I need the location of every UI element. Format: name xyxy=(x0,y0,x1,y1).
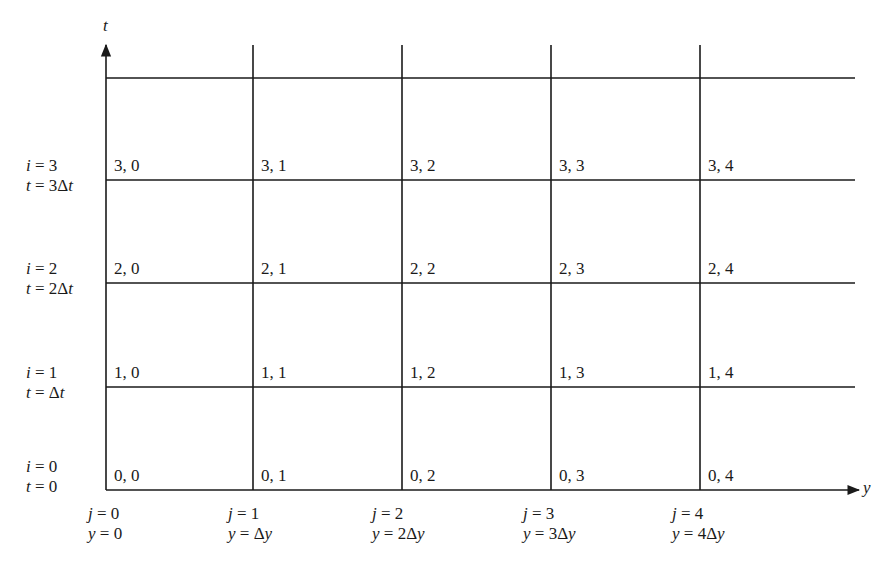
column-label-j: j = 0 xyxy=(88,504,119,524)
grid-diagram: ty3, 03, 13, 23, 33, 42, 02, 12, 22, 32,… xyxy=(0,0,889,575)
row-label-i: i = 1 xyxy=(26,363,57,383)
t-axis-label: t xyxy=(103,16,108,36)
node-label: 0, 4 xyxy=(708,466,734,486)
node-label: 0, 3 xyxy=(559,466,585,486)
row-label-i: i = 3 xyxy=(26,156,57,176)
y-axis-label: y xyxy=(863,478,871,498)
node-label: 3, 1 xyxy=(261,156,287,176)
column-label-y: y = 0 xyxy=(88,524,122,544)
row-label-t: t = 0 xyxy=(26,477,57,497)
row-label-i: i = 0 xyxy=(26,457,57,477)
grid-lines xyxy=(0,0,889,575)
row-label-t: t = 3Δt xyxy=(26,176,73,196)
node-label: 1, 2 xyxy=(410,363,436,383)
node-label: 1, 0 xyxy=(114,363,140,383)
node-label: 3, 0 xyxy=(114,156,140,176)
column-label-y: y = 2Δy xyxy=(372,524,425,544)
node-label: 3, 2 xyxy=(410,156,436,176)
node-label: 1, 1 xyxy=(261,363,287,383)
column-label-y: y = 4Δy xyxy=(672,524,725,544)
node-label: 3, 3 xyxy=(559,156,585,176)
node-label: 2, 1 xyxy=(261,259,287,279)
node-label: 2, 4 xyxy=(708,259,734,279)
column-label-y: y = 3Δy xyxy=(523,524,576,544)
node-label: 2, 3 xyxy=(559,259,585,279)
column-label-j: j = 4 xyxy=(672,504,703,524)
node-label: 3, 4 xyxy=(708,156,734,176)
column-label-j: j = 3 xyxy=(523,504,554,524)
node-label: 1, 4 xyxy=(708,363,734,383)
node-label: 0, 1 xyxy=(261,466,287,486)
row-label-i: i = 2 xyxy=(26,259,57,279)
column-label-j: j = 2 xyxy=(372,504,403,524)
column-label-y: y = Δy xyxy=(228,524,272,544)
row-label-t: t = Δt xyxy=(26,383,65,403)
node-label: 0, 2 xyxy=(410,466,436,486)
column-label-j: j = 1 xyxy=(228,504,259,524)
node-label: 1, 3 xyxy=(559,363,585,383)
row-label-t: t = 2Δt xyxy=(26,279,73,299)
node-label: 2, 0 xyxy=(114,259,140,279)
node-label: 0, 0 xyxy=(114,466,140,486)
node-label: 2, 2 xyxy=(410,259,436,279)
